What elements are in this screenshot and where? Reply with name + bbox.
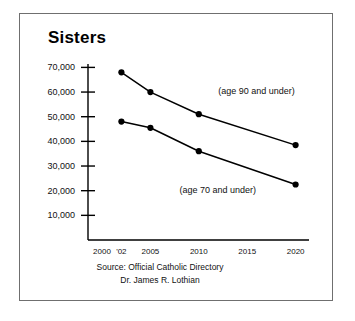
y-axis-tick-label: 70,000 <box>47 62 75 72</box>
source-line-2: Dr. James R. Lothian <box>120 275 199 285</box>
x-axis-tick-label: 2005 <box>142 247 160 256</box>
x-axis-tick-label: 2010 <box>190 247 208 256</box>
y-axis-tick-label: 60,000 <box>47 87 75 97</box>
y-axis-tick-label: 30,000 <box>47 161 75 171</box>
data-point-marker <box>196 111 202 117</box>
x-axis-tick-label: '02 <box>116 247 126 256</box>
x-axis-tick-label: 2015 <box>238 247 256 256</box>
chart-figure: Sisters 10,00020,00030,00040,00050,00060… <box>19 13 333 301</box>
x-axis-tick-label: 2000 <box>93 247 111 256</box>
series-line <box>121 122 295 185</box>
source-line-1: Source: Official Catholic Directory <box>97 262 224 272</box>
y-axis-tick-label: 40,000 <box>47 136 75 146</box>
data-point-marker <box>118 119 124 125</box>
y-axis-tick-label: 20,000 <box>47 186 75 196</box>
data-point-marker <box>147 125 153 131</box>
data-point-marker <box>147 89 153 95</box>
data-point-marker <box>196 148 202 154</box>
y-axis-tick-label: 10,000 <box>47 210 75 220</box>
data-point-marker <box>118 69 124 75</box>
series-label-0: (age 90 and under) <box>218 86 295 96</box>
series-line <box>121 72 295 145</box>
series-label-1: (age 70 and under) <box>179 185 256 195</box>
data-point-marker <box>293 181 299 187</box>
x-axis-tick-label: 2020 <box>287 247 305 256</box>
data-point-marker <box>293 142 299 148</box>
plot-area <box>20 14 334 302</box>
y-axis-tick-label: 50,000 <box>47 112 75 122</box>
